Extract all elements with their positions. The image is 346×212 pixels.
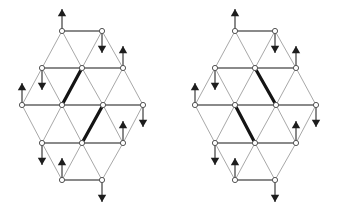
boundary-arrow-up xyxy=(58,9,66,31)
lattice-edge-diagonal xyxy=(296,105,316,143)
arrow-head-icon xyxy=(292,46,300,53)
lattice-edge-diagonal xyxy=(235,143,255,180)
figure-root xyxy=(0,0,346,212)
lattice-node xyxy=(59,177,64,182)
arrow-head-icon xyxy=(231,158,239,165)
lattice-node xyxy=(99,177,104,182)
lattice-node xyxy=(99,28,104,33)
lattice-node xyxy=(100,102,105,107)
lattice-node xyxy=(59,28,64,33)
lattice-node xyxy=(293,65,298,70)
lattice-edge-diagonal xyxy=(102,31,123,68)
lattice-edge-diagonal xyxy=(22,105,42,143)
lattice-edge-diagonal xyxy=(296,68,316,105)
arrow-head-icon xyxy=(312,120,320,127)
lattice-node xyxy=(120,65,125,70)
boundary-arrow-down xyxy=(211,68,219,90)
lattice-edge-diagonal xyxy=(276,105,296,143)
lattice-panel-right-lattice xyxy=(191,9,320,202)
lattice-edge-diagonal xyxy=(103,105,123,143)
lattice-node xyxy=(313,102,318,107)
arrow-head-icon xyxy=(58,9,66,16)
horizontal-edge-group xyxy=(195,31,316,180)
lattice-edge-diagonal xyxy=(42,143,62,180)
lattice-edge-diagonal xyxy=(275,143,296,180)
lattice-edge-diagonal xyxy=(82,143,102,180)
lattice-node xyxy=(252,140,257,145)
lattice-edge-diagonal xyxy=(123,105,143,143)
boundary-arrow-up xyxy=(119,121,127,143)
lattice-node xyxy=(79,65,84,70)
boundary-arrow-down xyxy=(271,31,279,53)
arrow-head-icon xyxy=(98,195,106,202)
lattice-node xyxy=(59,102,64,107)
arrow-head-icon xyxy=(18,83,26,90)
lattice-node xyxy=(192,102,197,107)
arrow-head-icon xyxy=(211,83,219,90)
boundary-arrow-down xyxy=(38,143,46,165)
lattice-edge-diagonal xyxy=(42,105,62,143)
lattice-node xyxy=(39,140,44,145)
lattice-edge-diagonal xyxy=(123,68,143,105)
lattice-edge-diagonal xyxy=(235,68,255,105)
arrow-head-icon xyxy=(231,9,239,16)
lattice-edge-diagonal xyxy=(215,31,235,68)
boundary-arrow-down xyxy=(312,105,320,127)
arrow-head-icon xyxy=(271,195,279,202)
lattice-node xyxy=(212,140,217,145)
lattice-edge-diagonal xyxy=(275,31,296,68)
lattice-edge-diagonal xyxy=(235,31,255,68)
arrow-head-icon xyxy=(119,46,127,53)
lattice-edge-diagonal xyxy=(82,31,102,68)
lattice-edge-bold xyxy=(82,105,103,143)
boundary-arrow-up xyxy=(58,158,66,180)
lattice-edge-diagonal xyxy=(62,105,82,143)
lattice-panel-left-lattice xyxy=(18,9,147,202)
arrow-head-icon xyxy=(38,158,46,165)
lattice-edge-diagonal xyxy=(195,68,215,105)
lattice-edge-diagonal xyxy=(215,68,235,105)
horizontal-edge-group xyxy=(22,31,143,180)
lattice-edge-diagonal xyxy=(62,31,82,68)
boundary-arrow-down xyxy=(271,180,279,202)
lattice-node xyxy=(232,177,237,182)
arrow-head-icon xyxy=(38,83,46,90)
lattice-node xyxy=(272,177,277,182)
arrow-head-icon xyxy=(271,46,279,53)
lattice-node xyxy=(120,140,125,145)
boundary-arrow-down xyxy=(211,143,219,165)
lattice-node xyxy=(293,140,298,145)
lattice-node xyxy=(79,140,84,145)
lattice-edge-diagonal xyxy=(42,31,62,68)
lattice-node xyxy=(19,102,24,107)
lattice-edge-diagonal xyxy=(255,105,276,143)
lattice-node xyxy=(140,102,145,107)
lattice-edge-diagonal xyxy=(255,143,275,180)
arrow-head-icon xyxy=(191,83,199,90)
lattice-diagram xyxy=(0,0,346,212)
lattice-node xyxy=(272,28,277,33)
lattice-edge-diagonal xyxy=(255,31,275,68)
lattice-node xyxy=(232,28,237,33)
lattice-node xyxy=(232,102,237,107)
lattice-edge-diagonal xyxy=(195,105,215,143)
lattice-edge-diagonal xyxy=(215,143,235,180)
lattice-edge-bold xyxy=(255,68,276,105)
arrow-head-icon xyxy=(292,121,300,128)
lattice-edge-diagonal xyxy=(102,143,123,180)
lattice-edge-diagonal xyxy=(276,68,296,105)
boundary-arrow-up xyxy=(231,158,239,180)
lattice-node xyxy=(252,65,257,70)
lattice-node xyxy=(273,102,278,107)
lattice-edge-diagonal xyxy=(42,68,62,105)
boundary-arrow-up xyxy=(119,46,127,68)
lattice-edge-bold xyxy=(235,105,255,143)
lattice-node xyxy=(39,65,44,70)
lattice-edge-diagonal xyxy=(215,105,235,143)
boundary-arrow-up xyxy=(231,9,239,31)
lattice-edge-bold xyxy=(62,68,82,105)
boundary-arrow-down xyxy=(139,105,147,127)
arrow-head-icon xyxy=(139,120,147,127)
boundary-arrow-up xyxy=(18,83,26,105)
boundary-arrow-down xyxy=(98,31,106,53)
